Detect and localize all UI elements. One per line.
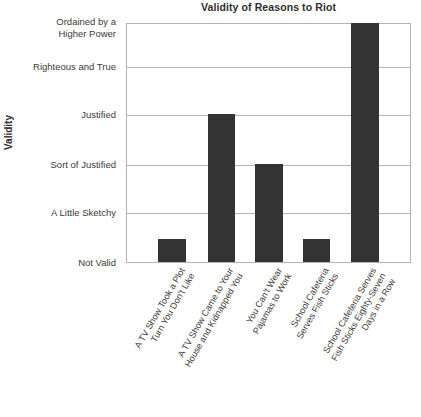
bar-tv-show-plot-turn: [158, 239, 186, 262]
chart-container: Validity of Reasons to Riot Validity Ord…: [0, 0, 421, 417]
y-tick-line: A Little Sketchy: [51, 207, 116, 218]
y-tick-line: Not Valid: [78, 257, 116, 268]
y-tick-line: Righteous and True: [33, 61, 116, 72]
y-tick-line: Ordained by a: [56, 16, 116, 27]
bar-pajamas-to-work: [255, 164, 283, 262]
y-tick-label-a-little-sketchy: A Little Sketchy: [0, 207, 121, 219]
bar-cafeteria-fish-sticks: [303, 239, 330, 262]
y-tick-line: Higher Power: [58, 28, 116, 39]
y-tick-label-justified: Justified: [0, 109, 121, 121]
bar-tv-show-kidnapped: [208, 114, 235, 262]
plot-area: [126, 23, 411, 263]
chart-title: Validity of Reasons to Riot: [126, 1, 411, 14]
y-tick-label-righteous: Righteous and True: [0, 61, 121, 73]
y-tick-label-not-valid: Not Valid: [0, 257, 121, 269]
y-tick-label-ordained: Ordained by a Higher Power: [0, 16, 121, 39]
y-tick-label-sort-of-justified: Sort of Justified: [0, 159, 121, 171]
bar-fish-sticks-eighty-seven-days: [351, 23, 379, 262]
y-tick-line: Justified: [81, 109, 116, 120]
y-tick-line: Sort of Justified: [51, 159, 116, 170]
